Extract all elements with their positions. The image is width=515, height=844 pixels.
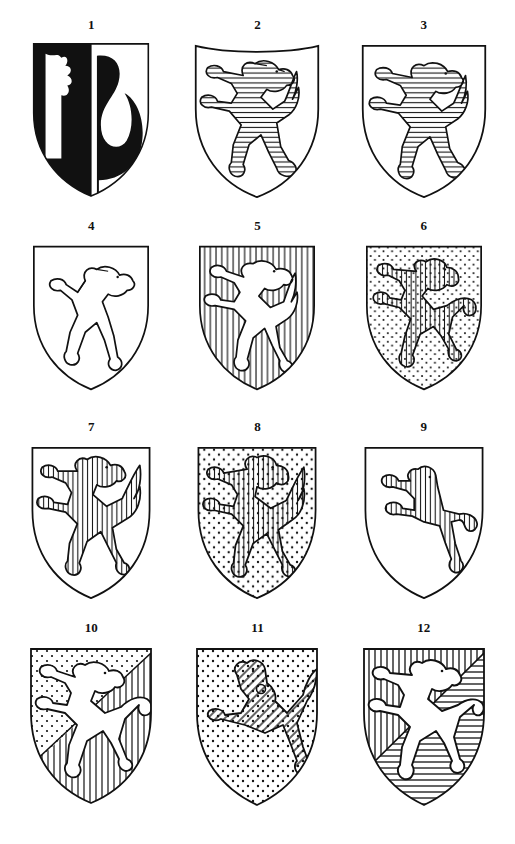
shield-cell-9[interactable]: 9 [341,420,507,621]
shield-cell-8[interactable]: 8 [174,420,340,621]
shield-cell-12[interactable]: 12 [341,621,507,822]
shield-cell-10[interactable]: 10 [8,621,174,822]
shield-number-10: 10 [85,621,98,634]
shield-number-7: 7 [88,420,95,433]
shield-number-2: 2 [254,18,261,31]
shield-figure-10[interactable] [15,639,167,807]
shield-figure-3[interactable] [348,36,500,202]
shield-number-4: 4 [88,219,95,232]
shield-figure-2[interactable] [181,36,333,202]
shield-figure-1[interactable] [15,36,167,202]
shield-cell-5[interactable]: 5 [174,219,340,420]
shield-number-5: 5 [254,219,261,232]
shield-figure-11[interactable] [181,639,333,807]
shield-figure-4[interactable] [15,237,167,397]
shield-figure-9[interactable] [348,438,500,602]
shield-cell-2[interactable]: 2 [174,18,340,219]
shield-figure-12[interactable] [348,639,500,807]
shield-grid: 1 [0,0,515,844]
shield-number-3: 3 [421,18,428,31]
shield-number-12: 12 [417,621,430,634]
shield-cell-3[interactable]: 3 [341,18,507,219]
shield-number-9: 9 [421,420,428,433]
shield-figure-8[interactable] [181,438,333,602]
shield-cell-11[interactable]: 11 [174,621,340,822]
shield-figure-6[interactable] [348,237,500,397]
shield-number-8: 8 [254,420,261,433]
shield-figure-5[interactable] [181,237,333,397]
shield-cell-1[interactable]: 1 [8,18,174,219]
heraldic-plate: 1 [0,0,515,844]
shield-figure-7[interactable] [15,438,167,602]
shield-number-6: 6 [421,219,428,232]
shield-cell-4[interactable]: 4 [8,219,174,420]
shield-number-11: 11 [251,621,263,634]
shield-cell-7[interactable]: 7 [8,420,174,621]
shield-cell-6[interactable]: 6 [341,219,507,420]
shield-number-1: 1 [88,18,95,31]
